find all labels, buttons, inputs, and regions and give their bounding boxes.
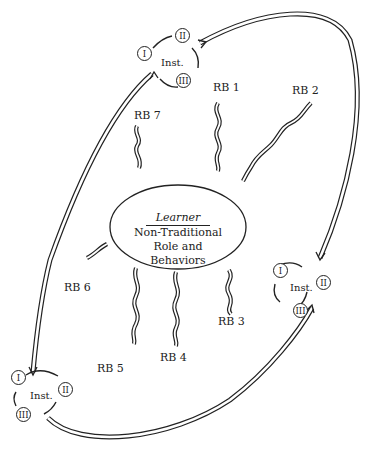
inst-right-node-i: I xyxy=(273,263,288,278)
learner-line-3: Behaviors xyxy=(112,254,244,268)
learner-title: Learner xyxy=(146,211,210,226)
inst-right-node-ii: II xyxy=(316,275,331,290)
rb-1-label: RB 1 xyxy=(213,82,240,93)
rb-4-label: RB 4 xyxy=(160,352,187,363)
learner-box: Learner Non-Traditional Role and Behavio… xyxy=(112,206,244,268)
inst-top-node-ii: II xyxy=(175,28,190,43)
rb-2-label: RB 2 xyxy=(292,85,319,96)
inst-bl-label: Inst. xyxy=(30,390,53,401)
inst-bl-node-i: I xyxy=(11,370,26,385)
inst-bl-node-iii: III xyxy=(16,407,31,422)
rb-5-label: RB 5 xyxy=(97,363,124,374)
inst-right-label: Inst. xyxy=(290,282,313,293)
inst-top-node-iii: III xyxy=(176,73,191,88)
rb-7-label: RB 7 xyxy=(134,110,161,121)
rb-3-label: RB 3 xyxy=(218,316,245,327)
rb-6-label: RB 6 xyxy=(64,282,91,293)
inst-bl-node-ii: II xyxy=(58,382,73,397)
learner-role-diagram: I II III Inst. I II III Inst. I II III I… xyxy=(0,0,367,451)
learner-line-1: Non-Traditional xyxy=(112,226,244,240)
learner-line-2: Role and xyxy=(112,240,244,254)
inst-top-label: Inst. xyxy=(161,57,184,68)
inst-top-node-i: I xyxy=(137,46,152,61)
inst-right-node-iii: III xyxy=(293,303,308,318)
